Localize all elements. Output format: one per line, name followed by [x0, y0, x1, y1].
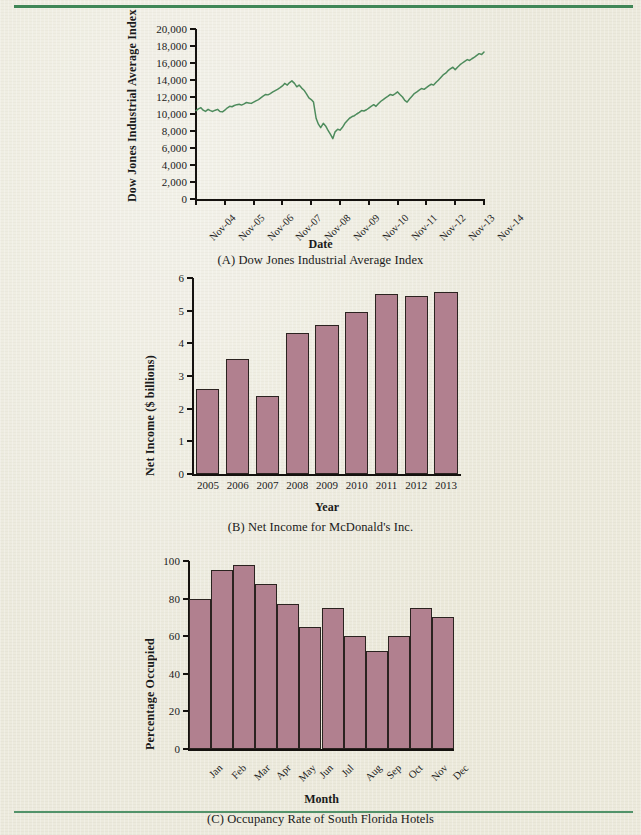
x-tick-label: 2006 [227, 479, 249, 491]
figure-c-plot-area: 020406080100JanFebMarAprMayJunJulAugSepO… [189, 561, 454, 749]
x-tick [368, 199, 370, 205]
x-tick-label: Sep [384, 762, 403, 781]
figure-c-caption: (C) Occupancy Rate of South Florida Hote… [0, 812, 641, 827]
figure-c-x-axis [188, 749, 454, 751]
x-tick [339, 199, 341, 205]
y-tick-label: 4 [178, 337, 184, 349]
bar [196, 389, 219, 474]
y-tick [190, 147, 196, 149]
bar [315, 325, 338, 474]
bar [405, 296, 428, 474]
y-tick-label: 6 [178, 272, 184, 284]
bar [375, 294, 398, 474]
y-tick-label: 5 [178, 305, 184, 317]
figure-a-y-axis-title: Dow Jones Industrial Average Index [125, 32, 140, 202]
x-tick-label: 2011 [376, 479, 398, 491]
y-tick-label: 20 [169, 705, 180, 717]
bar [344, 636, 366, 749]
x-tick-label: 2010 [346, 479, 368, 491]
figure-a-line-series [196, 29, 484, 199]
y-tick [190, 181, 196, 183]
figure-c-y-axis-title: Percentage Occupied [143, 562, 158, 750]
x-tick-label: 2009 [316, 479, 338, 491]
bar [434, 292, 457, 474]
y-tick-label: 10,000 [156, 108, 187, 120]
bar [211, 570, 233, 749]
y-tick-label: 14,000 [156, 74, 187, 86]
x-tick-label: Jan [207, 762, 225, 780]
y-tick-label: 100 [163, 555, 180, 567]
x-tick-label: Apr [274, 762, 293, 781]
figure-a-plot-area: 02,0004,0006,0008,00010,00012,00014,0001… [196, 29, 484, 199]
y-tick [190, 79, 196, 81]
y-tick [187, 277, 193, 279]
x-tick-label: 2012 [405, 479, 427, 491]
x-tick-label: Mar [252, 762, 272, 782]
y-tick [190, 45, 196, 47]
top-rule [14, 5, 633, 8]
figure-b-x-axis-title: Year [193, 500, 461, 515]
y-tick [190, 28, 196, 30]
figure-a-x-axis-title: Date [0, 237, 641, 252]
figure-page: Dow Jones Industrial Average Index 02,00… [0, 0, 641, 835]
y-tick [190, 62, 196, 64]
x-tick [483, 199, 485, 205]
y-tick-label: 60 [169, 630, 180, 642]
y-tick [187, 342, 193, 344]
bar [322, 608, 344, 749]
x-tick-label: May [297, 762, 318, 783]
y-tick [187, 473, 193, 475]
y-tick-label: 16,000 [156, 57, 187, 69]
bar [286, 333, 309, 474]
x-tick [253, 199, 255, 205]
figure-c: Percentage Occupied 020406080100JanFebMa… [0, 556, 641, 818]
y-tick [187, 310, 193, 312]
x-tick [454, 199, 456, 205]
y-tick-label: 40 [169, 668, 180, 680]
bar [189, 599, 211, 749]
x-tick [425, 199, 427, 205]
x-tick-label: 2008 [286, 479, 308, 491]
y-tick-label: 4,000 [162, 159, 187, 171]
figure-b-caption: (B) Net Income for McDonald's Inc. [0, 520, 641, 535]
y-tick-label: 1 [178, 435, 184, 447]
y-tick-label: 20,000 [156, 23, 187, 35]
y-tick-label: 18,000 [156, 40, 187, 52]
figure-c-x-axis-title: Month [189, 792, 454, 807]
y-tick [190, 164, 196, 166]
x-tick-label: Jun [317, 762, 335, 780]
x-tick [397, 199, 399, 205]
bar [277, 604, 299, 749]
x-tick-label: Jul [339, 762, 355, 778]
y-tick-label: 0 [181, 193, 187, 205]
figure-a-caption: (A) Dow Jones Industrial Average Index [0, 253, 641, 268]
figure-b-y-axis-title: Net Income ($ billions) [143, 280, 158, 476]
x-tick-label: 2007 [256, 479, 278, 491]
x-tick-label: Aug [363, 762, 384, 783]
bar [255, 584, 277, 749]
bar [410, 608, 432, 749]
x-tick [281, 199, 283, 205]
y-tick-label: 0 [174, 743, 180, 755]
y-tick [183, 560, 189, 562]
bar [345, 312, 368, 474]
figure-b-plot-area: 0123456200520062007200820092010201120122… [193, 278, 461, 474]
figure-b: Net Income ($ billions) 0123456200520062… [0, 272, 641, 534]
bar [233, 565, 255, 749]
y-tick-label: 2 [178, 403, 184, 415]
y-tick [190, 96, 196, 98]
bar [226, 359, 249, 474]
figure-a: Dow Jones Industrial Average Index 02,00… [0, 12, 641, 252]
x-tick-label: 2005 [197, 479, 219, 491]
y-tick-label: 2,000 [162, 176, 187, 188]
x-tick-label: Nov [429, 762, 450, 783]
x-tick [310, 199, 312, 205]
y-tick [190, 113, 196, 115]
bar [388, 636, 410, 749]
bar [256, 396, 279, 474]
bar [432, 617, 454, 749]
bar [299, 627, 321, 749]
y-tick-label: 8,000 [162, 125, 187, 137]
y-tick [187, 375, 193, 377]
bar [366, 651, 388, 749]
